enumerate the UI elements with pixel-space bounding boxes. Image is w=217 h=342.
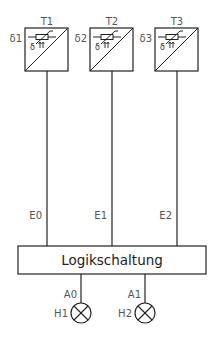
lamp-icon [135,303,155,323]
lamp-label-h2: H2 [118,308,132,319]
thermistor-icon: δ [158,31,186,52]
signal-label-d1: δ1 [10,33,22,44]
sensor-label-t2: T2 [105,16,118,27]
sensor-t3: T3 δ3 δ E2 [140,16,198,246]
sensor-t2: T2 δ2 δ E1 [75,16,133,246]
svg-text:δ: δ [160,43,165,52]
logic-block: Logikschaltung [18,246,206,274]
output-label-a1: A1 [128,289,141,300]
svg-text:δ: δ [95,43,100,52]
input-label-e0: E0 [29,210,42,221]
output-a0: A0 H1 [54,274,91,323]
sensor-t1: T1 δ1 δ E0 [10,16,68,246]
output-label-a0: A0 [64,289,77,300]
logic-circuit-diagram: T1 δ1 δ E0 T2 δ2 δ [0,0,217,342]
signal-label-d3: δ3 [140,33,152,44]
thermistor-icon: δ [28,31,56,52]
sensor-label-t1: T1 [40,16,53,27]
thermistor-icon: δ [93,31,121,52]
logic-block-label: Logikschaltung [61,252,163,268]
signal-label-d2: δ2 [75,33,87,44]
input-label-e2: E2 [159,210,172,221]
lamp-icon [71,303,91,323]
output-a1: A1 H2 [118,274,155,323]
svg-text:δ: δ [30,43,35,52]
lamp-label-h1: H1 [54,308,68,319]
sensor-label-t3: T3 [170,16,183,27]
input-label-e1: E1 [94,210,107,221]
